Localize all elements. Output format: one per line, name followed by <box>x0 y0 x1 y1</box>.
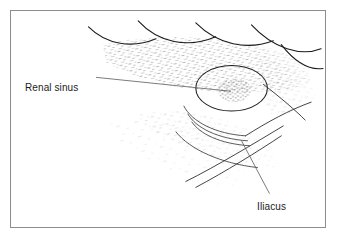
tissue-texture-group <box>102 37 317 191</box>
figure-root: Renal sinus Iliacus <box>0 0 337 243</box>
figure-frame: Renal sinus Iliacus <box>10 10 326 228</box>
label-renal-sinus: Renal sinus <box>25 82 78 94</box>
label-iliacus: Iliacus <box>257 201 286 213</box>
illustration-canvas <box>11 11 325 227</box>
